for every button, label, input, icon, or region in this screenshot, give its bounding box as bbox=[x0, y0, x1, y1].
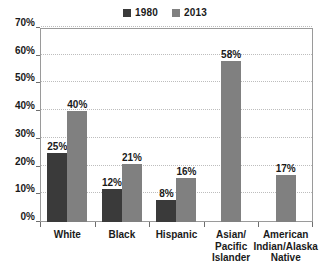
bar-2013-1 bbox=[122, 164, 142, 222]
y-axis-tick-label: 50% bbox=[15, 73, 35, 83]
x-axis: WhiteBlackHispanicAsian/ Pacific Islande… bbox=[40, 222, 313, 271]
y-axis-tick-label: 10% bbox=[15, 184, 35, 194]
y-axis: 0%10%20%30%40%50%60%70% bbox=[0, 28, 40, 222]
bar-value-label: 17% bbox=[269, 163, 303, 174]
y-axis-tick-label: 20% bbox=[15, 157, 35, 167]
legend-swatch-2013 bbox=[172, 9, 180, 17]
y-axis-tick-label: 70% bbox=[15, 18, 35, 28]
bars-layer: 25%40%12%21%8%16%58%17% bbox=[40, 28, 313, 222]
gridline bbox=[41, 26, 312, 27]
bar-group: 8%16% bbox=[149, 28, 204, 222]
x-axis-tick-mark bbox=[149, 222, 150, 227]
chart-legend: 1980 2013 bbox=[0, 8, 330, 18]
bar-chart: 1980 2013 0%10%20%30%40%50%60%70% 25%40%… bbox=[0, 0, 330, 271]
bar-value-label: 21% bbox=[115, 152, 149, 163]
bar-1980-1 bbox=[102, 189, 122, 222]
bar-2013-2 bbox=[176, 178, 196, 222]
bar-2013-4 bbox=[276, 175, 296, 222]
bar-value-label: 40% bbox=[60, 99, 94, 110]
bar-2013-0 bbox=[67, 111, 87, 222]
bar-group: 58% bbox=[204, 28, 259, 222]
bar-value-label: 16% bbox=[169, 166, 203, 177]
x-axis-tick-mark bbox=[40, 222, 41, 227]
y-axis-tick-label: 40% bbox=[15, 101, 35, 111]
bar-1980-2 bbox=[156, 200, 176, 222]
bar-group: 17% bbox=[258, 28, 313, 222]
legend-item-2013: 2013 bbox=[172, 8, 207, 18]
bar-group: 12%21% bbox=[95, 28, 150, 222]
legend-label-1980: 1980 bbox=[135, 8, 158, 18]
x-axis-tick-mark bbox=[204, 222, 205, 227]
x-axis-tick-mark bbox=[258, 222, 259, 227]
bar-value-label: 58% bbox=[214, 49, 248, 60]
y-axis-tick-label: 60% bbox=[15, 46, 35, 56]
bar-1980-0 bbox=[47, 153, 67, 222]
x-axis-tick-mark bbox=[312, 222, 313, 227]
bar-2013-3 bbox=[221, 61, 241, 222]
bar-group: 25%40% bbox=[40, 28, 95, 222]
legend-swatch-1980 bbox=[123, 9, 131, 17]
y-axis-tick-label: 0% bbox=[21, 212, 35, 222]
y-axis-tick-label: 30% bbox=[15, 129, 35, 139]
x-axis-tick-mark bbox=[95, 222, 96, 227]
x-axis-category-label: American Indian/Alaska Native bbox=[252, 229, 319, 264]
legend-label-2013: 2013 bbox=[184, 8, 207, 18]
legend-item-1980: 1980 bbox=[123, 8, 158, 18]
